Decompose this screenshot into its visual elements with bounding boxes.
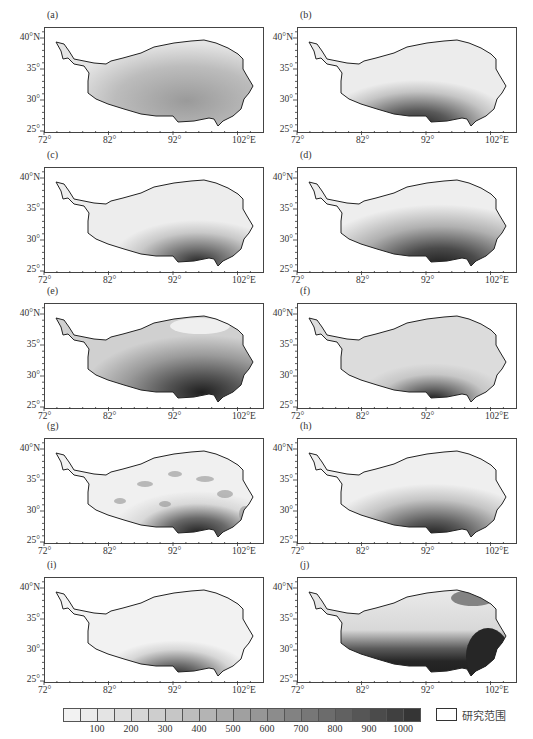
panel-label: (i)	[47, 559, 56, 570]
y-tick-label: 25°	[6, 674, 40, 684]
y-tick-label: 40°N	[6, 32, 40, 42]
colorbar-swatch	[302, 709, 319, 721]
x-tick-label: 72°	[38, 546, 51, 556]
colorbar	[63, 708, 421, 722]
axis-ticks	[40, 165, 270, 277]
y-tick-label: 35°	[259, 339, 293, 349]
x-tick-label: 82°	[103, 685, 116, 695]
panel-label: (d)	[300, 149, 312, 160]
y-tick-label: 30°	[6, 234, 40, 244]
y-tick-label: 40°N	[6, 308, 40, 318]
colorbar-swatch	[64, 709, 81, 721]
study-area-swatch	[436, 708, 457, 721]
panel-label: (f)	[300, 285, 310, 296]
axis-ticks	[40, 575, 270, 687]
axis-ticks	[40, 436, 270, 548]
y-tick-label: 40°N	[6, 443, 40, 453]
colorbar-tick-label: 300	[158, 723, 173, 734]
colorbar-swatch	[285, 709, 302, 721]
y-tick-label: 35°	[6, 474, 40, 484]
y-tick-label: 35°	[6, 339, 40, 349]
y-tick-label: 30°	[259, 644, 293, 654]
x-tick-label: 72°	[38, 135, 51, 145]
y-tick-label: 40°N	[259, 308, 293, 318]
axis-ticks	[40, 25, 270, 137]
y-tick-label: 35°	[6, 613, 40, 623]
y-tick-label: 35°	[6, 63, 40, 73]
x-tick-label: 102°E	[485, 546, 509, 556]
axis-ticks	[293, 436, 523, 548]
x-tick-label: 92°	[421, 685, 434, 695]
colorbar-swatch	[217, 709, 234, 721]
axis-ticks	[293, 25, 523, 137]
colorbar-swatch	[115, 709, 132, 721]
study-area-label: 研究范围	[462, 707, 506, 723]
x-tick-label: 82°	[356, 546, 369, 556]
colorbar-swatch	[268, 709, 285, 721]
x-tick-label: 82°	[103, 546, 116, 556]
x-tick-label: 102°E	[232, 546, 256, 556]
y-tick-label: 35°	[259, 203, 293, 213]
colorbar-tick-label: 600	[260, 723, 275, 734]
x-tick-label: 92°	[168, 411, 181, 421]
y-tick-label: 25°	[6, 124, 40, 134]
colorbar-swatch	[336, 709, 353, 721]
panel-label: (j)	[300, 559, 309, 570]
x-tick-label: 92°	[168, 685, 181, 695]
x-tick-label: 72°	[38, 275, 51, 285]
x-tick-label: 102°E	[485, 275, 509, 285]
y-tick-label: 40°N	[259, 32, 293, 42]
panel-label: (h)	[300, 420, 312, 431]
y-tick-label: 30°	[259, 370, 293, 380]
colorbar-tick-label: 400	[192, 723, 207, 734]
y-tick-label: 30°	[6, 370, 40, 380]
colorbar-swatch	[353, 709, 370, 721]
y-tick-label: 25°	[6, 264, 40, 274]
axis-ticks	[40, 301, 270, 413]
y-tick-label: 30°	[6, 94, 40, 104]
y-tick-label: 30°	[259, 94, 293, 104]
y-tick-label: 25°	[259, 124, 293, 134]
panel-label: (g)	[47, 420, 59, 431]
panel-label: (b)	[300, 9, 312, 20]
x-tick-label: 102°E	[485, 411, 509, 421]
x-tick-label: 72°	[38, 411, 51, 421]
x-tick-label: 72°	[291, 546, 304, 556]
x-tick-label: 72°	[291, 275, 304, 285]
x-tick-label: 92°	[168, 275, 181, 285]
y-tick-label: 30°	[259, 505, 293, 515]
colorbar-tick-label: 900	[362, 723, 377, 734]
y-tick-label: 30°	[6, 644, 40, 654]
colorbar-swatch	[81, 709, 98, 721]
colorbar-swatch	[404, 709, 420, 721]
x-tick-label: 82°	[103, 411, 116, 421]
colorbar-swatch	[251, 709, 268, 721]
y-tick-label: 25°	[259, 535, 293, 545]
x-tick-label: 82°	[356, 411, 369, 421]
y-tick-label: 35°	[259, 474, 293, 484]
panel-label: (e)	[47, 285, 58, 296]
x-tick-label: 92°	[168, 135, 181, 145]
x-tick-label: 92°	[421, 135, 434, 145]
x-tick-label: 82°	[356, 685, 369, 695]
colorbar-tick-label: 800	[328, 723, 343, 734]
y-tick-label: 30°	[6, 505, 40, 515]
y-tick-label: 35°	[6, 203, 40, 213]
y-tick-label: 40°N	[6, 172, 40, 182]
y-tick-label: 25°	[6, 400, 40, 410]
colorbar-swatch	[370, 709, 387, 721]
x-tick-label: 92°	[168, 546, 181, 556]
x-tick-label: 72°	[291, 411, 304, 421]
x-tick-label: 82°	[356, 275, 369, 285]
y-tick-label: 25°	[259, 400, 293, 410]
x-tick-label: 102°E	[232, 135, 256, 145]
axis-ticks	[293, 575, 523, 687]
x-tick-label: 102°E	[485, 685, 509, 695]
x-tick-label: 82°	[103, 135, 116, 145]
colorbar-swatch	[166, 709, 183, 721]
colorbar-swatch	[98, 709, 115, 721]
panel-label: (a)	[47, 9, 58, 20]
colorbar-swatch	[132, 709, 149, 721]
y-tick-label: 40°N	[259, 443, 293, 453]
x-tick-label: 72°	[291, 685, 304, 695]
